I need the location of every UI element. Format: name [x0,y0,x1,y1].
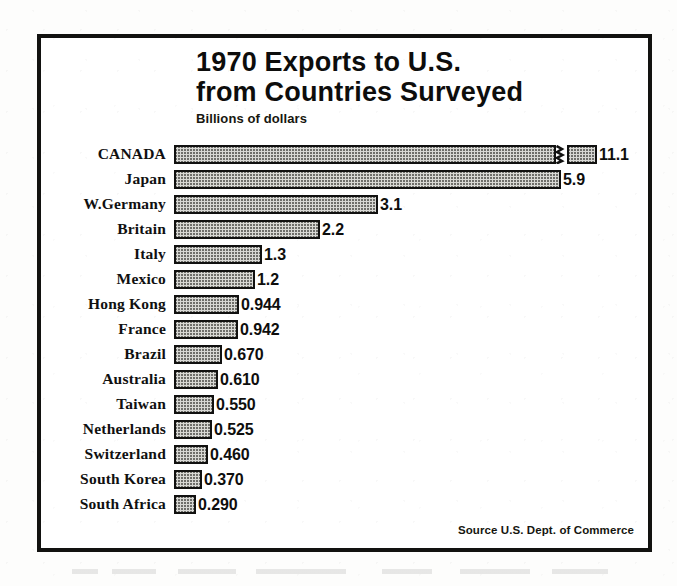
bar [174,320,238,339]
bar-row: Hong Kong0.944 [41,292,648,317]
bar-group: 0.944 [174,295,281,314]
bar [174,145,556,164]
bar-value-label: 0.670 [224,345,264,364]
category-label: Mexico [117,267,166,292]
bar [174,170,561,189]
category-label: Italy [134,242,166,267]
bar-group: 0.460 [174,445,250,464]
category-label: Brazil [124,342,166,367]
bar-row: South Korea0.370 [41,467,648,492]
bar-value-label: 5.9 [563,170,585,189]
bar [174,495,196,514]
axis-break-icon [556,145,567,164]
bar-value-label: 0.370 [204,470,244,489]
bar-rows: CANADA11.1Japan5.9W.Germany3.1Britain2.2… [41,142,648,517]
bar-row: W.Germany3.1 [41,192,648,217]
bar-group: 0.290 [174,495,238,514]
bar [174,245,262,264]
bar-group: 0.550 [174,395,256,414]
bar-value-label: 0.550 [216,395,256,414]
chart-title-line-1: 1970 Exports to U.S. [196,47,646,77]
category-label: Hong Kong [88,292,166,317]
bar [174,270,255,289]
bar-value-label: 0.610 [220,370,260,389]
bar-row: Netherlands0.525 [41,417,648,442]
bar-group: 5.9 [174,170,585,189]
bar-group: 2.2 [174,220,344,239]
category-label: France [118,317,166,342]
bar-row: France0.942 [41,317,648,342]
category-label: CANADA [98,142,166,167]
bar-row: CANADA11.1 [41,142,648,167]
category-label: Taiwan [116,392,166,417]
bar-value-label: 1.2 [257,270,279,289]
source-note: Source U.S. Dept. of Commerce [458,524,634,536]
bar-row: Taiwan0.550 [41,392,648,417]
category-label: Switzerland [85,442,166,467]
bar-value-label: 3.1 [380,195,402,214]
bar [174,195,378,214]
bar [174,445,208,464]
bar-row: Switzerland0.460 [41,442,648,467]
category-label: Japan [125,167,167,192]
bar-group: 0.525 [174,420,254,439]
bar-group: 1.2 [174,270,279,289]
bar-group: 0.670 [174,345,264,364]
bar-value-label: 1.3 [264,245,286,264]
bar-value-label: 0.460 [210,445,250,464]
bar-row: South Africa0.290 [41,492,648,517]
bar-value-label: 2.2 [322,220,344,239]
bar-group: 1.3 [174,245,286,264]
bar [174,395,214,414]
category-label: Netherlands [83,417,166,442]
bar-value-label: 0.290 [198,495,238,514]
chart-title-line-2: from Countries Surveyed [196,77,646,107]
bar-tip-segment [567,145,597,164]
bar-row: Mexico1.2 [41,267,648,292]
bar [174,220,320,239]
bar [174,420,212,439]
bar-value-label: 0.942 [240,320,280,339]
bar-row: Australia0.610 [41,367,648,392]
bar-row: Japan5.9 [41,167,648,192]
bar-row: Italy1.3 [41,242,648,267]
chart-title-block: 1970 Exports to U.S. from Countries Surv… [196,47,646,127]
category-label: Britain [117,217,166,242]
bar-row: Britain2.2 [41,217,648,242]
category-label: W.Germany [83,192,166,217]
bar-group: 0.942 [174,320,280,339]
category-label: South Africa [80,492,166,517]
category-label: Australia [102,367,166,392]
bar-row: Brazil0.670 [41,342,648,367]
bar-group: 0.370 [174,470,244,489]
bar-group: 0.610 [174,370,260,389]
chart-frame: 1970 Exports to U.S. from Countries Surv… [37,34,652,552]
page-bleed-text [60,563,620,579]
scanned-page: 1970 Exports to U.S. from Countries Surv… [0,0,677,586]
bar [174,345,222,364]
category-label: South Korea [80,467,166,492]
chart-subtitle-units: Billions of dollars [196,111,646,127]
bar [174,295,239,314]
bar-group: 3.1 [174,195,402,214]
bar-value-label: 11.1 [599,145,629,164]
bar-value-label: 0.525 [214,420,254,439]
bar [174,370,218,389]
bar-value-label: 0.944 [241,295,281,314]
bar [174,470,202,489]
bar-group: 11.1 [174,145,629,164]
